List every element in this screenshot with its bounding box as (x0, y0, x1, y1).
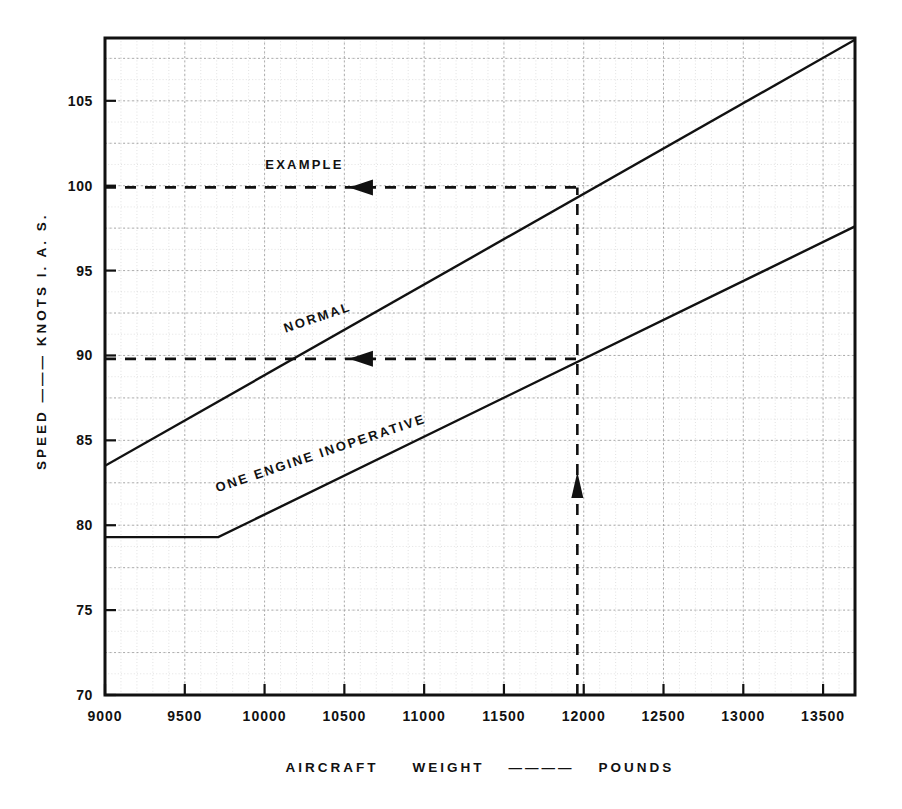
y-tick-label: 85 (76, 432, 93, 448)
x-tick-label: 13000 (721, 708, 765, 724)
x-tick-label: 9500 (167, 708, 202, 724)
y-tick-label: 105 (68, 93, 93, 109)
y-tick-label: 100 (68, 178, 93, 194)
x-tick-label: 13500 (801, 708, 845, 724)
x-tick-label: 12000 (562, 708, 606, 724)
y-tick-label: 95 (76, 263, 93, 279)
x-tick-label: 12500 (642, 708, 686, 724)
x-tick-label: 10500 (322, 708, 366, 724)
chart-canvas: 707580859095100105 900095001000010500110… (0, 0, 902, 809)
y-axis-title: SPEED ——— KNOTS I. A. S. (34, 212, 49, 470)
x-tick-label: 9000 (87, 708, 122, 724)
y-tick-label: 80 (76, 517, 93, 533)
x-tick-label: 11500 (482, 708, 525, 724)
chart-background (0, 0, 902, 809)
x-tick-label: 10000 (243, 708, 287, 724)
example-label: EXAMPLE (265, 157, 343, 172)
performance-chart: 707580859095100105 900095001000010500110… (0, 0, 902, 809)
y-tick-label: 75 (76, 602, 93, 618)
y-tick-label: 70 (76, 687, 93, 703)
x-tick-label: 11000 (403, 708, 446, 724)
y-tick-label: 90 (76, 347, 93, 363)
x-axis-title: AIRCRAFTWEIGHT————POUNDS (286, 760, 675, 775)
